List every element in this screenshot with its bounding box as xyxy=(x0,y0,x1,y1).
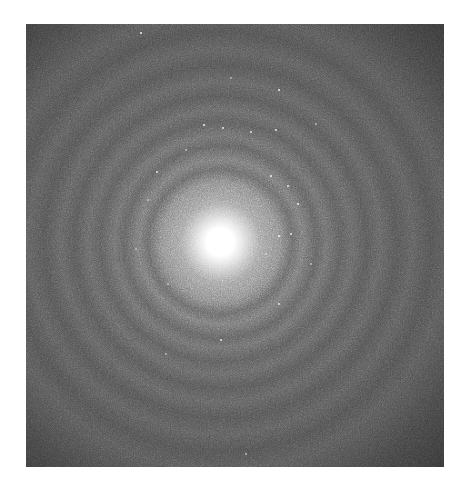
diffraction-pattern-image xyxy=(26,24,444,467)
diffraction-spots xyxy=(26,24,444,467)
